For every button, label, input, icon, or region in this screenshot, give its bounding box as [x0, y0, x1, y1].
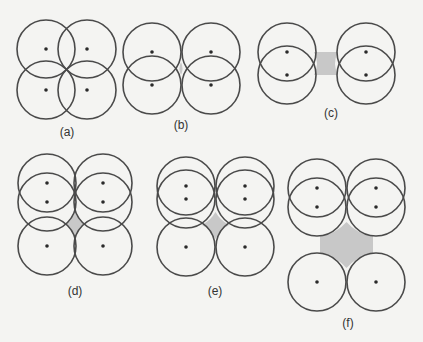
center-dot-b-3 [209, 50, 213, 54]
center-dot-f-1 [315, 186, 319, 190]
center-dot-d-4 [101, 200, 105, 204]
center-dot-e-4 [243, 197, 247, 201]
panel-label-a: (a) [60, 125, 75, 139]
center-dot-d-5 [45, 244, 49, 248]
circle-arrangement-figure: (a) (b) (c) (d) (e) (f) [0, 0, 423, 342]
center-dot-f-3 [374, 186, 378, 190]
panel-label-b: (b) [174, 118, 189, 132]
panel-label-f: (f) [342, 316, 353, 330]
panel-b [123, 23, 240, 114]
center-dot-f-2 [315, 205, 319, 209]
panel-e [157, 157, 274, 276]
center-dot-a-3 [44, 88, 48, 92]
shaded-void-region [180, 62, 183, 75]
center-dot-d-6 [101, 244, 105, 248]
center-dot-c-1 [285, 50, 289, 54]
panel-a [17, 20, 116, 119]
shaded-void-region [66, 212, 84, 236]
panel-f [288, 159, 405, 311]
center-dot-f-4 [374, 205, 378, 209]
center-dot-e-1 [184, 184, 188, 188]
shaded-void-region [314, 52, 338, 75]
center-dot-d-3 [101, 181, 105, 185]
panel-c [258, 23, 395, 104]
panel-d [18, 154, 132, 275]
center-dot-b-1 [150, 50, 154, 54]
center-dot-b-4 [209, 83, 213, 87]
center-dot-d-1 [45, 181, 49, 185]
center-dot-e-2 [184, 197, 188, 201]
center-dot-d-2 [45, 200, 49, 204]
center-dot-c-3 [364, 50, 368, 54]
center-dot-e-6 [243, 245, 247, 249]
panel-label-c: (c) [324, 106, 338, 120]
shaded-void-region [320, 222, 373, 268]
center-dot-c-2 [285, 73, 289, 77]
center-dot-f-6 [374, 280, 378, 284]
center-dot-a-1 [44, 47, 48, 51]
center-dot-a-2 [85, 47, 89, 51]
center-dot-b-2 [150, 83, 154, 87]
center-dot-e-5 [184, 245, 188, 249]
panel-label-e: (e) [208, 284, 223, 298]
center-dot-c-4 [364, 73, 368, 77]
center-dot-f-5 [315, 280, 319, 284]
panel-label-d: (d) [68, 284, 83, 298]
center-dot-a-4 [85, 88, 89, 92]
center-dot-e-3 [243, 184, 247, 188]
